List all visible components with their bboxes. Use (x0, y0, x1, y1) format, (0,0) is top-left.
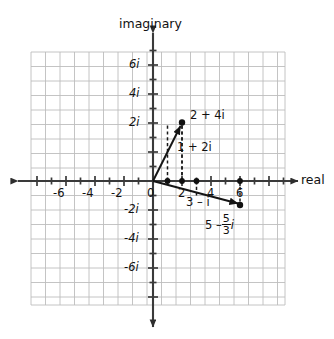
point-axis-3 (194, 178, 200, 184)
complex-plane-canvas (0, 0, 334, 339)
x-tick-label-neg4: -4 (82, 188, 93, 200)
y-tick-label-4i: 4i (129, 88, 140, 100)
grid-lines (31, 52, 285, 305)
fraction-denominator: 3 (222, 224, 231, 236)
point-label-5minus-five-thirds-i: 5 –53i (205, 213, 234, 236)
point-label-3minusi-text: 3 – i (186, 195, 210, 209)
point-2plus4i (179, 119, 185, 125)
fraction-numerator: 5 (222, 213, 231, 224)
real-axis-title: real (301, 174, 325, 187)
fraction-five-thirds: 53 (222, 213, 231, 236)
vectors (153, 126, 238, 204)
point-axis-2 (179, 178, 185, 184)
point-axis-1 (165, 178, 171, 184)
x-tick-label-2: 2 (178, 188, 185, 200)
y-tick-label-2i: 2i (129, 117, 140, 129)
x-tick-label-6: 6 (236, 188, 243, 200)
point-label-5minus-imaginary-unit: i (231, 218, 234, 232)
complex-plane-figure: imaginary real -6 -4 -2 0 2 4 6 6i 4i 2i… (0, 0, 334, 339)
y-tick-label-neg2i: -2i (124, 204, 139, 216)
y-tick-label-neg6i: -6i (124, 262, 139, 274)
imaginary-axis-title: imaginary (119, 18, 182, 31)
point-label-2plus4i-text: 2 + 4i (190, 108, 225, 122)
point-label-1plus2i-text: 1 + 2i (177, 140, 212, 154)
axis-ticks (37, 51, 284, 298)
point-label-1plus2i: 1 + 2i (177, 142, 212, 154)
point-label-2plus4i: 2 + 4i (190, 110, 225, 122)
point-5minus53i (237, 202, 243, 208)
y-tick-label-neg4i: -4i (124, 233, 139, 245)
point-label-5minus-lead: 5 – (205, 218, 222, 232)
origin-label: 0 (147, 188, 154, 200)
y-tick-label-6i: 6i (129, 59, 140, 71)
x-tick-label-neg6: -6 (53, 188, 64, 200)
point-label-3minusi: 3 – i (186, 197, 210, 209)
point-axis-5 (237, 178, 243, 184)
x-tick-label-neg2: -2 (111, 188, 122, 200)
